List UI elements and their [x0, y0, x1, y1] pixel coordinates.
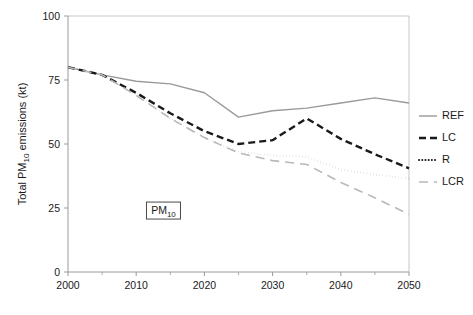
y-tick-label: 75 [48, 74, 60, 86]
chart-annotations: PM10 [146, 202, 180, 219]
y-axis-title-post: emissions (kt) [16, 83, 28, 154]
x-tick-label: 2000 [56, 279, 80, 291]
x-tick-label: 2020 [193, 279, 217, 291]
x-tick-label: 2040 [329, 279, 353, 291]
chart-figure: 0255075100200020102020203020402050 PM10 … [0, 0, 473, 315]
series-line-lcr [68, 67, 409, 214]
legend-label-r: R [442, 153, 450, 165]
chart-series [68, 67, 409, 214]
series-line-ref [68, 67, 409, 117]
y-tick-label: 100 [42, 10, 60, 22]
legend-label-lc: LC [442, 131, 456, 143]
legend-label-ref: REF [442, 109, 464, 121]
x-tick-label: 2050 [397, 279, 421, 291]
y-axis-title: Total PM10 emissions (kt) [16, 83, 31, 206]
x-tick-label: 2010 [125, 279, 149, 291]
y-axis-title-pre: Total PM [16, 163, 28, 206]
y-tick-label: 0 [54, 266, 60, 278]
y-tick-label: 25 [48, 202, 60, 214]
y-tick-label: 50 [48, 138, 60, 150]
y-axis-title-text: Total PM10 emissions (kt) [16, 83, 31, 206]
x-tick-label: 2030 [261, 279, 285, 291]
series-line-r [68, 67, 409, 178]
chart-legend: REFLCRLCR [419, 109, 464, 187]
legend-label-lcr: LCR [442, 175, 464, 187]
line-chart: 0255075100200020102020203020402050 PM10 … [0, 0, 473, 315]
